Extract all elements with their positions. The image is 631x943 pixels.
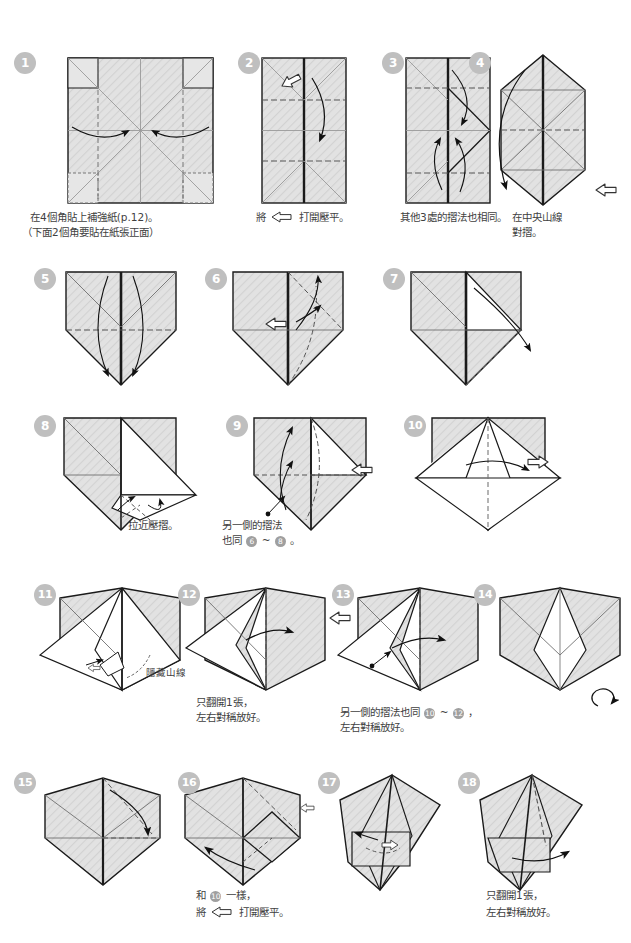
step-3-figure [406, 58, 490, 203]
open-here-arrow-icon [211, 906, 233, 922]
step-ref-badge-10b[interactable]: 10 [210, 891, 221, 902]
step-1-caption-line-2: （下面2個角要貼在紙張正面） [22, 225, 159, 240]
step-16-caption-line-1: 和 10 一樣， [196, 888, 256, 903]
step-badge-9[interactable]: 9 [226, 415, 248, 437]
step-badge-16[interactable]: 16 [178, 772, 200, 794]
step-18-figure [480, 775, 582, 890]
step-16-line2-suffix: 打開壓平。 [239, 906, 289, 918]
step-9-figure [254, 418, 372, 530]
step-badge-8[interactable]: 8 [34, 415, 56, 437]
step-4-caption-line-1: 在中央山線 [512, 210, 562, 225]
step-13-figure [330, 588, 478, 690]
step-ref-badge-6[interactable]: 6 [246, 536, 257, 547]
step-11-hidden-mountain-label: 隱藏山線 [146, 665, 186, 679]
step-badge-4[interactable]: 4 [469, 52, 491, 74]
step-ref-badge-8[interactable]: 8 [275, 536, 286, 547]
step-badge-13[interactable]: 13 [332, 584, 354, 606]
step-8-figure [64, 418, 196, 530]
step-9-ref-mid: ~ [262, 534, 271, 546]
step-18-caption-line-1: 只翻開1張， [486, 888, 543, 903]
step-8-caption: 拉近壓摺。 [128, 518, 178, 533]
step-ref-badge-10[interactable]: 10 [424, 708, 435, 719]
step-badge-1[interactable]: 1 [14, 52, 36, 74]
step-4-caption-line-2: 對摺。 [512, 225, 542, 240]
step-9-ref-prefix: 也同 [222, 534, 242, 546]
step-9-ref-suffix: 。 [290, 534, 300, 546]
step-13-caption-line-1: 另一側的摺法也同 10 ~ 12 ， [340, 705, 478, 720]
step-14-figure [500, 588, 620, 706]
step-16-ref-suffix: 一樣， [226, 889, 256, 901]
origami-diagram-page: 1 2 3 4 5 6 7 8 9 10 11 12 13 14 15 16 1… [0, 0, 631, 943]
step-badge-18[interactable]: 18 [458, 772, 480, 794]
step-2-caption: 將 打開壓平。 [256, 210, 349, 227]
step-15-figure [45, 778, 160, 885]
step-badge-6[interactable]: 6 [205, 268, 227, 290]
step-13-ref-mid: ~ [440, 706, 449, 718]
step-13-ref-prefix: 另一側的摺法也同 [340, 706, 420, 718]
step-badge-5[interactable]: 5 [34, 268, 56, 290]
step-badge-3[interactable]: 3 [382, 52, 404, 74]
step-badge-14[interactable]: 14 [474, 584, 496, 606]
step-badge-11[interactable]: 11 [34, 584, 56, 606]
step-9-caption-line-1: 另一側的摺法 [222, 518, 282, 533]
step-12-caption-line-2: 左右對稱放好。 [196, 710, 266, 725]
step-2-caption-suffix: 打開壓平。 [299, 211, 349, 223]
step-12-figure [186, 588, 325, 690]
step-9-caption-line-2: 也同 6 ~ 8 。 [222, 533, 300, 548]
step-16-line2-prefix: 將 [196, 906, 206, 918]
step-16-ref-prefix: 和 [196, 889, 206, 901]
step-7-figure [411, 272, 530, 385]
step-badge-12[interactable]: 12 [178, 584, 200, 606]
step-badge-7[interactable]: 7 [383, 268, 405, 290]
step-4-figure [499, 55, 616, 205]
step-13-ref-suffix: ， [468, 706, 478, 718]
step-1-figure [68, 58, 213, 203]
step-ref-badge-12[interactable]: 12 [453, 708, 464, 719]
step-badge-2[interactable]: 2 [238, 52, 260, 74]
step-3-caption: 其他3處的摺法也相同。 [400, 210, 507, 225]
open-here-arrow-icon [271, 211, 293, 227]
step-5-figure [66, 272, 176, 385]
step-6-figure [233, 272, 343, 385]
step-badge-17[interactable]: 17 [318, 772, 340, 794]
step-badge-10[interactable]: 10 [404, 415, 426, 437]
step-10-figure [410, 418, 560, 530]
step-16-figure [185, 778, 314, 885]
step-2-caption-prefix: 將 [256, 211, 266, 223]
diagram-canvas [0, 0, 631, 943]
step-18-caption-line-2: 左右對稱放好。 [486, 905, 556, 920]
step-16-caption-line-2: 將 打開壓平。 [196, 905, 289, 922]
step-badge-15[interactable]: 15 [14, 772, 36, 794]
step-17-figure [340, 775, 440, 890]
step-1-caption-line-1: 在4個角貼上補強紙(p.12)。 [30, 210, 158, 225]
step-12-caption-line-1: 只翻開1張， [196, 695, 253, 710]
step-2-figure [262, 58, 346, 203]
step-13-caption-line-2: 左右對稱放好。 [340, 720, 410, 735]
